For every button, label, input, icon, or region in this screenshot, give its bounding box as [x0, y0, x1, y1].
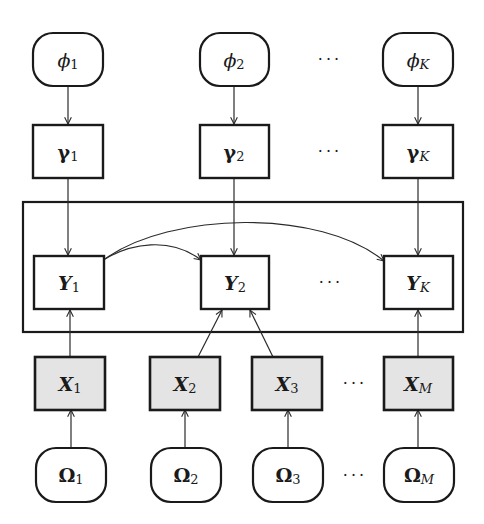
- edge-y1-y2-curve: [105, 245, 201, 260]
- node-Omega-M: ΩM: [384, 448, 454, 502]
- node-Y-K: YK: [384, 256, 453, 309]
- ellipsis-gamma: ···: [318, 142, 342, 161]
- ellipsis-Omega: ···: [343, 466, 367, 485]
- ellipsis-X: ···: [343, 374, 367, 393]
- node-X-M: XM: [384, 357, 453, 410]
- node-Omega-3: Ω3: [253, 448, 323, 502]
- node-X-2: X2: [150, 357, 220, 410]
- ellipsis-phi: ···: [318, 50, 342, 69]
- node-phi-K: ϕK: [383, 33, 453, 86]
- edge-x3-y2: [250, 310, 273, 357]
- node-Omega-1: Ω1: [36, 448, 106, 502]
- node-phi-2: ϕ2: [200, 33, 269, 86]
- node-X-1: X1: [35, 357, 105, 410]
- node-Y-2: Y2: [201, 256, 269, 309]
- node-phi-1: ϕ1: [33, 33, 103, 86]
- node-X-3: X3: [252, 357, 322, 410]
- node-gamma-2: γ2: [200, 125, 269, 178]
- node-Y-1: Y1: [34, 256, 104, 309]
- node-gamma-K: γK: [383, 125, 453, 178]
- node-gamma-1: γ1: [33, 125, 103, 178]
- edge-x2-y2: [198, 310, 222, 357]
- graphical-model-diagram: ϕ1 ϕ2 ··· ϕK γ1 γ2 ··· γK Y1 Y2 ··· YK X…: [0, 0, 484, 524]
- ellipsis-Y: ···: [319, 273, 343, 292]
- node-Omega-2: Ω2: [151, 448, 221, 502]
